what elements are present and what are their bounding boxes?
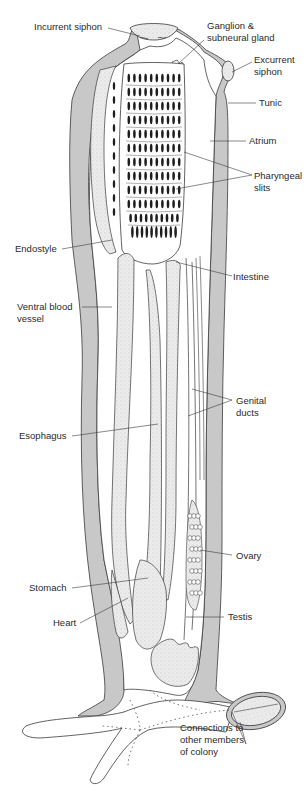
label-endostyle: Endostyle — [15, 243, 57, 255]
label-ovary: Ovary — [236, 550, 261, 562]
excurrent-siphon — [222, 61, 234, 81]
label-ventral-blood-vessel: Ventral blood vessel — [17, 301, 72, 325]
label-ganglion-subneural-gland: Ganglion & subneural gland — [207, 20, 275, 44]
label-testis: Testis — [228, 611, 252, 623]
label-pharyngeal-slits: Pharyngeal slits — [254, 170, 302, 194]
label-incurrent-siphon: Incurrent siphon — [34, 21, 102, 33]
label-connections-to-colony: Connections to other members of colony — [180, 722, 244, 758]
label-genital-ducts: Genital ducts — [236, 395, 266, 419]
ovary — [186, 500, 202, 610]
label-intestine: Intestine — [233, 271, 269, 283]
label-esophagus: Esophagus — [19, 430, 67, 442]
label-stomach: Stomach — [29, 582, 67, 594]
ascidian-diagram: Incurrent siphon Ganglion & subneural gl… — [0, 0, 307, 791]
label-heart: Heart — [53, 617, 76, 629]
label-excurrent-siphon: Excurrent siphon — [254, 54, 295, 78]
label-atrium: Atrium — [249, 135, 276, 147]
pharynx — [119, 63, 185, 265]
label-tunic: Tunic — [259, 97, 282, 109]
stolon — [22, 687, 289, 783]
